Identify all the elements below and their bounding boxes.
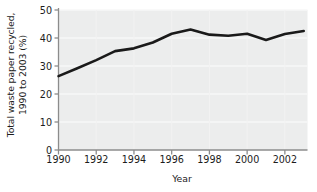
x-axis-tick: 2000 <box>227 154 267 166</box>
x-axis-tick: 1990 <box>39 154 79 166</box>
y-axis-tick-label: 40 <box>28 33 52 44</box>
x-axis-tick: 2002 <box>265 154 305 166</box>
y-axis-tick-label: 30 <box>28 61 52 72</box>
x-axis-tick: 1998 <box>189 154 229 166</box>
chart-figure: Total waste paper recycled, 1990 to 2003… <box>0 0 317 192</box>
x-axis-tick-label: 1994 <box>114 154 154 165</box>
x-axis-tick: 1994 <box>114 154 154 166</box>
x-axis-tick-label: 1998 <box>189 154 229 165</box>
x-axis-tick: 1996 <box>152 154 192 166</box>
x-axis-tick-label: 1996 <box>152 154 192 165</box>
x-axis-tick-label: 1990 <box>39 154 79 165</box>
y-axis-tick-label: 50 <box>28 5 52 16</box>
x-axis-tick-label: 1992 <box>76 154 116 165</box>
x-axis-tick-label: 2002 <box>265 154 305 165</box>
y-axis-tick-label: 20 <box>28 89 52 100</box>
x-axis-tick-label: 2000 <box>227 154 267 165</box>
x-axis-tick: 1992 <box>76 154 116 166</box>
y-axis-label: Total waste paper recycled, 1990 to 2003… <box>0 0 34 150</box>
x-axis-label: Year <box>57 173 307 184</box>
y-axis-tick-label: 10 <box>28 117 52 128</box>
